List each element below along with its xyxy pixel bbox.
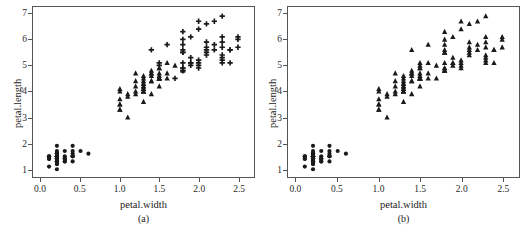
y-tick-label: 5 [261,60,282,70]
data-point-triangle [442,37,447,42]
data-point-triangle [376,107,381,112]
data-point-plus [188,55,193,60]
data-point-triangle [475,18,480,23]
data-point-plus [172,76,177,81]
y-tick-label: 7 [6,8,27,18]
x-tick-label: 1.0 [114,184,126,194]
x-tick-mark [295,178,296,182]
y-tick-label: 2 [6,139,27,149]
x-tick-mark [159,178,160,182]
y-tick-mark [283,118,287,119]
data-point-triangle [133,70,138,75]
data-point-triangle [393,83,398,88]
data-point-triangle [157,83,162,88]
data-point-triangle [442,42,447,47]
y-tick-label: 1 [6,165,27,175]
data-point-triangle [467,39,472,44]
data-point-triangle [401,73,406,78]
y-tick-mark [283,13,287,14]
series-virginica [149,13,241,81]
data-point-circle [86,152,90,156]
data-point-triangle [376,86,381,91]
data-point-triangle [483,13,488,18]
x-tick-label: 0.5 [331,184,343,194]
data-point-circle [311,167,315,171]
data-point-triangle [117,96,122,101]
y-tick-mark [283,170,287,171]
data-point-plus [196,19,201,24]
data-point-triangle [483,34,488,39]
x-tick-label: 1.5 [414,184,426,194]
x-tick-label: 2.0 [193,184,205,194]
y-tick-mark [283,144,287,145]
figure-scatter-pair: 12345670.00.51.01.52.02.5 petal.width pe… [0,0,529,230]
y-axis-title-b: petal.length [267,79,278,128]
data-point-triangle [117,101,122,106]
data-point-triangle [401,99,406,104]
panel-caption-a: (a) [32,213,255,224]
data-point-circle [327,159,331,163]
data-point-triangle [384,94,389,99]
data-point-triangle [475,47,480,52]
plot-area-a [32,6,255,178]
data-point-triangle [141,81,146,86]
x-tick-label: 2.5 [497,184,509,194]
data-point-triangle [149,91,154,96]
data-point-circle [311,157,315,161]
panel-a: 12345670.00.51.01.52.02.5 petal.width pe… [0,0,265,230]
data-point-triangle [491,47,496,52]
data-point-triangle [409,68,414,73]
y-tick-label: 7 [261,8,282,18]
data-point-triangle [417,76,422,81]
data-point-triangle [442,29,447,34]
data-point-circle [327,154,331,158]
x-tick-label: 1.0 [373,184,385,194]
data-point-circle [55,157,59,161]
data-point-triangle [417,83,422,88]
x-tick-mark [40,178,41,182]
data-point-triangle [164,70,169,75]
data-point-triangle [376,96,381,101]
series-setosa [47,144,91,172]
data-point-triangle [409,47,414,52]
data-point-circle [71,144,75,148]
data-point-plus [220,13,225,18]
data-point-triangle [450,34,455,39]
x-tick-label: 1.5 [153,184,165,194]
x-tick-label: 0.0 [289,184,301,194]
x-tick-mark [337,178,338,182]
data-point-plus [220,45,225,50]
x-axis-title-a: petal.width [32,199,255,210]
y-tick-mark [28,144,32,145]
x-tick-mark [199,178,200,182]
data-point-triangle [458,57,463,62]
data-point-triangle [483,44,488,49]
data-point-triangle [149,73,154,78]
data-point-triangle [475,42,480,47]
data-point-triangle [149,78,154,83]
scatter-canvas-b [288,7,519,177]
data-point-plus [220,34,225,39]
x-tick-mark [80,178,81,182]
data-point-triangle [483,57,488,62]
y-tick-mark [283,65,287,66]
data-point-triangle [491,60,496,65]
data-point-triangle [450,55,455,60]
y-tick-mark [28,65,32,66]
data-point-triangle [467,21,472,26]
y-tick-mark [28,170,32,171]
data-point-circle [78,149,82,153]
data-point-plus [164,42,169,47]
data-point-circle [344,152,348,156]
data-point-triangle [467,52,472,57]
data-point-circle [303,165,307,169]
data-point-triangle [157,70,162,75]
data-point-triangle [450,63,455,68]
plot-area-b [287,6,520,178]
x-tick-mark [420,178,421,182]
data-point-plus [227,47,232,52]
y-tick-mark [28,118,32,119]
data-point-triangle [442,60,447,65]
data-point-circle [71,159,75,163]
data-point-plus [188,34,193,39]
